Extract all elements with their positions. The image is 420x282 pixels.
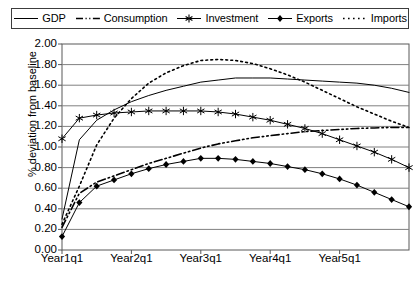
- line-dotted-key: [342, 13, 368, 24]
- legend-item-investment: Investment: [176, 13, 258, 24]
- chart-legend: GDP Consumption Investment: [11, 8, 409, 29]
- chart-canvas: [0, 36, 420, 282]
- legend-item-consumption: Consumption: [75, 13, 168, 24]
- legend-label-consumption: Consumption: [104, 13, 168, 24]
- line-dashdot-key: [75, 13, 101, 24]
- legend-label-exports: Exports: [296, 13, 333, 24]
- legend-item-imports: Imports: [342, 13, 407, 24]
- legend-item-gdp: GDP: [13, 13, 66, 24]
- legend-label-imports: Imports: [371, 13, 407, 24]
- legend-label-investment: Investment: [205, 13, 258, 24]
- line-diamond-key: [267, 13, 293, 24]
- legend-item-exports: Exports: [267, 13, 333, 24]
- plot-area: % deviation from baseline 0.000.200.400.…: [0, 36, 420, 282]
- chart-figure: GDP Consumption Investment: [0, 0, 420, 282]
- legend-label-gdp: GDP: [42, 13, 66, 24]
- line-asterisk-key: [176, 13, 202, 24]
